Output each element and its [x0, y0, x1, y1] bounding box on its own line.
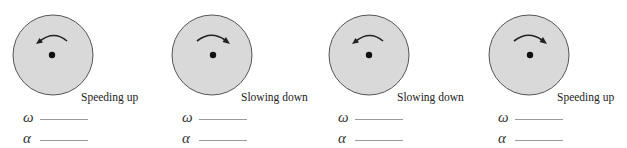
axle-dot — [527, 52, 533, 58]
disk-panel-2: Slowing down ω α — [159, 0, 319, 148]
alpha-symbol: α — [182, 131, 190, 146]
rotating-disk — [159, 0, 319, 100]
omega-symbol: ω — [498, 110, 509, 125]
state-label: Slowing down — [241, 92, 308, 104]
alpha-row: α — [182, 131, 252, 145]
rotating-disk — [315, 0, 475, 100]
omega-row: ω — [338, 110, 408, 124]
omega-symbol: ω — [182, 110, 193, 125]
axle-dot — [210, 52, 216, 58]
disk-panel-3: Slowing down ω α — [315, 0, 475, 148]
omega-symbol: ω — [23, 110, 34, 125]
rotating-disk — [475, 0, 627, 100]
omega-answer-blank[interactable] — [355, 119, 403, 120]
omega-answer-blank[interactable] — [515, 119, 563, 120]
omega-row: ω — [182, 110, 252, 124]
alpha-answer-blank[interactable] — [355, 140, 403, 141]
omega-row: ω — [23, 110, 93, 124]
omega-row: ω — [498, 110, 568, 124]
omega-symbol: ω — [338, 110, 349, 125]
rotating-disk — [0, 0, 160, 100]
omega-answer-blank[interactable] — [199, 119, 247, 120]
alpha-symbol: α — [338, 131, 346, 146]
state-label: Slowing down — [397, 92, 464, 104]
alpha-answer-blank[interactable] — [40, 140, 88, 141]
alpha-row: α — [338, 131, 408, 145]
disk-panel-4: Speeding up ω α — [475, 0, 627, 148]
axle-dot — [49, 52, 55, 58]
alpha-answer-blank[interactable] — [515, 140, 563, 141]
state-label: Speeding up — [557, 92, 614, 104]
alpha-symbol: α — [23, 131, 31, 146]
omega-answer-blank[interactable] — [40, 119, 88, 120]
alpha-symbol: α — [498, 131, 506, 146]
axle-dot — [366, 52, 372, 58]
alpha-answer-blank[interactable] — [199, 140, 247, 141]
state-label: Speeding up — [81, 92, 138, 104]
disk-panel-1: Speeding up ω α — [0, 0, 160, 148]
alpha-row: α — [23, 131, 93, 145]
alpha-row: α — [498, 131, 568, 145]
